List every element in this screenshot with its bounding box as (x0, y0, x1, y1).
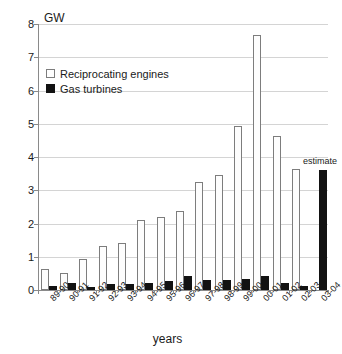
x-axis-tick-mark (251, 290, 252, 294)
y-axis-tick: 2 (0, 219, 34, 230)
x-axis-tick-mark (77, 290, 78, 294)
y-axis-tick-label: 4 (4, 152, 34, 163)
bar-group (157, 24, 173, 290)
y-axis-tick: 8 (0, 19, 34, 30)
x-axis-tick-mark (135, 290, 136, 294)
y-axis-tick-label: 3 (4, 185, 34, 196)
y-axis-tick-label: 1 (4, 252, 34, 263)
x-axis-tick-mark (38, 290, 39, 294)
bar-group (273, 24, 289, 290)
x-axis-tick-mark (212, 290, 213, 294)
x-axis-tick-mark (173, 290, 174, 294)
y-axis-tick-label: 6 (4, 86, 34, 97)
legend-swatch-black-square-icon (46, 84, 55, 93)
bar-group (234, 24, 250, 290)
x-axis-tick-mark (231, 290, 232, 294)
x-axis-tick-mark (289, 290, 290, 294)
legend-label: Gas turbines (60, 83, 122, 95)
bar-group (195, 24, 211, 290)
bar-reciprocating-engines (292, 169, 300, 290)
bar-reciprocating-engines (273, 136, 281, 290)
bar-group (137, 24, 153, 290)
y-axis-tick: 4 (0, 152, 34, 163)
y-axis-tick-label: 0 (4, 285, 34, 296)
bar-reciprocating-engines (195, 182, 203, 290)
legend-item-gas-turbines: Gas turbines (46, 81, 169, 96)
y-axis-tick-label: 2 (4, 219, 34, 230)
x-axis-tick-mark (96, 290, 97, 294)
bar-group (118, 24, 134, 290)
x-axis-tick-mark (154, 290, 155, 294)
y-axis-tick: 6 (0, 86, 34, 97)
annotation-estimate: estimate (303, 156, 337, 166)
x-axis-tick-mark (270, 290, 271, 294)
bar-reciprocating-engines (234, 126, 242, 290)
bar-reciprocating-engines (253, 35, 261, 290)
bar-group (79, 24, 95, 290)
bar-gas-turbines (319, 170, 327, 290)
plot-area (38, 24, 328, 290)
x-axis-tick-mark (193, 290, 194, 294)
y-axis-tick: 1 (0, 252, 34, 263)
x-axis-tick-mark (309, 290, 310, 294)
y-axis-tick: 3 (0, 185, 34, 196)
x-axis-tick-mark (328, 290, 329, 294)
bar-reciprocating-engines (215, 175, 223, 290)
y-axis-tick-label: 7 (4, 52, 34, 63)
y-axis-tick-label: 8 (4, 19, 34, 30)
bar-group (176, 24, 192, 290)
y-axis-tick: 0 (0, 285, 34, 296)
legend-label: Reciprocating engines (60, 68, 169, 80)
bar-group (99, 24, 115, 290)
x-axis-tick-mark (57, 290, 58, 294)
bar-reciprocating-engines (41, 269, 49, 290)
y-axis-tick: 7 (0, 52, 34, 63)
bar-group (41, 24, 57, 290)
legend-item-reciprocating-engines: Reciprocating engines (46, 66, 169, 81)
bar-reciprocating-engines (176, 211, 184, 290)
legend-swatch-white-square-icon (46, 69, 55, 78)
x-axis-tick-mark (115, 290, 116, 294)
bar-group (253, 24, 269, 290)
x-axis-title: years (0, 332, 335, 346)
y-axis-tick-label: 5 (4, 119, 34, 130)
bar-group (60, 24, 76, 290)
y-axis-tick: 5 (0, 119, 34, 130)
bar-group (215, 24, 231, 290)
legend: Reciprocating engines Gas turbines (46, 66, 169, 96)
